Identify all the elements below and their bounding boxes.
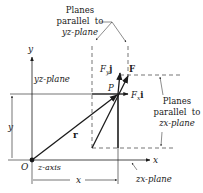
fy-component-arrow [118,73,120,94]
origin-label: O [21,162,29,172]
fy-label: Fyj [99,64,112,76]
yz-leader-line-2 [112,22,126,42]
fx-label: Fxi [130,90,144,101]
y-dimension-label: y [7,122,14,132]
position-vector-r [32,95,117,160]
r-vector-label: r [73,130,78,140]
x-dimension-label: x [76,175,81,185]
zx-plane-leader [132,163,137,170]
x-axis-label: x [153,155,158,165]
y-axis-label: y [27,44,34,54]
zx-leader-top [160,77,163,95]
yz-plane-label: yz-plane [33,74,70,84]
point-p-label: P [107,83,114,93]
z-axis-label: z-axis [37,163,61,172]
planes-zx-label-3: zx-plane [158,118,195,128]
planes-yz-label-3: yz-plane [61,27,98,37]
planes-yz-label-2: parallel to [57,16,104,26]
planes-yz-label-1: Planes [66,5,94,15]
zx-plane-label: zx-plane [135,174,172,184]
planes-zx-label-1: Planes [163,96,191,106]
f-vector-label: F [129,64,135,74]
force-vector-diagram: Planes parallel to yz-plane y yz-plane F… [0,0,203,193]
zx-leader-bottom [161,132,162,146]
planes-zx-label-2: parallel to [154,107,201,117]
